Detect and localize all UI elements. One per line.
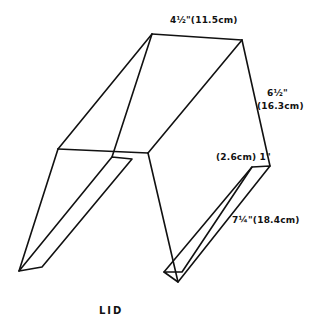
left-slope-edge xyxy=(58,34,152,149)
flap-length-label: 7¼"(18.4cm) xyxy=(232,216,300,225)
top-ridge-edge xyxy=(152,34,242,40)
diagram-title: LID xyxy=(99,306,123,316)
top-width-label: 4½"(11.5cm) xyxy=(170,16,238,25)
lid-diagram: 4½"(11.5cm) 6½" (16.3cm) (2.6cm) 1" 7¼"(… xyxy=(0,0,318,330)
flap-depth-label: (2.6cm) 1" xyxy=(216,153,271,162)
back-slope-edge xyxy=(112,34,152,157)
side-height-inch-label: 6½" xyxy=(267,89,288,98)
side-height-cm-label: (16.3cm) xyxy=(257,102,304,111)
front-slope-edge xyxy=(148,40,242,153)
fold-line xyxy=(58,149,148,153)
left-leg-outer-edge xyxy=(19,149,58,271)
right-leg-outer-edge xyxy=(148,153,178,282)
lid-line-drawing xyxy=(0,0,318,330)
left-flap xyxy=(19,157,132,271)
